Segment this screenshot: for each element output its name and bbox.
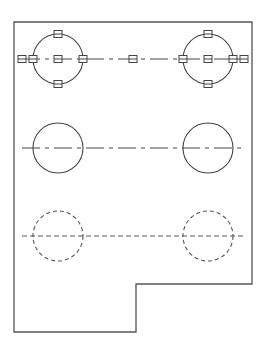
selected-holes-row[interactable] xyxy=(18,31,248,88)
plate-outline[interactable] xyxy=(14,22,252,332)
hidden-holes-row[interactable] xyxy=(22,211,245,261)
drawing-canvas[interactable] xyxy=(0,0,265,342)
visible-holes-row[interactable] xyxy=(22,123,245,173)
